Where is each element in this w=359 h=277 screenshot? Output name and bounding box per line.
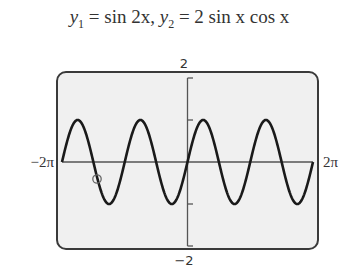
x-max-label: 2π: [323, 154, 339, 170]
graph-canvas: 2 −2 −2π 2π: [0, 0, 359, 277]
y-max-label: 2: [180, 56, 188, 71]
y-min-label: −2: [174, 253, 193, 268]
x-min-label: −2π: [30, 154, 54, 170]
